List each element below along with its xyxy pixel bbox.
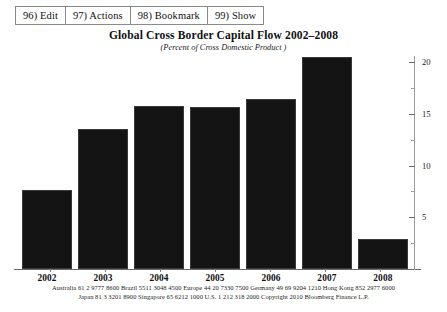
bar-2002[interactable] <box>22 190 72 269</box>
toolbar-button-bookmark[interactable]: 98) Bookmark <box>131 7 208 24</box>
footer-line-2: Japan 81 3 3201 8900 Singapore 65 6212 1… <box>0 292 447 301</box>
bar-2006[interactable] <box>246 99 296 269</box>
footer-line-1: Australia 61 2 9777 8600 Brazil 5511 304… <box>0 283 447 292</box>
bar-slot <box>190 56 240 269</box>
x-tick <box>325 269 326 272</box>
y-tick-label-5: 5 <box>422 213 426 222</box>
chart-subtitle: (Percent of Cross Domestic Product ) <box>0 42 447 53</box>
bar-2003[interactable] <box>78 129 128 269</box>
y-tick-5 <box>409 217 415 218</box>
x-tick <box>215 269 216 272</box>
x-axis-label-2004: 2004 <box>134 273 184 283</box>
bar-2008[interactable] <box>358 239 408 269</box>
y-minor-tick <box>411 243 415 244</box>
bar-series <box>22 56 408 269</box>
x-axis-label-2006: 2006 <box>246 273 296 283</box>
x-tick <box>105 269 106 272</box>
y-minor-tick <box>411 88 415 89</box>
x-axis-label-2002: 2002 <box>22 273 72 283</box>
x-tick <box>380 269 381 272</box>
x-axis-line <box>14 269 421 270</box>
y-tick-10 <box>409 166 415 167</box>
y-minor-tick <box>411 191 415 192</box>
bar-2004[interactable] <box>134 106 184 269</box>
toolbar-button-show[interactable]: 99) Show <box>208 7 263 24</box>
bar-slot <box>358 56 408 269</box>
x-axis-labels: 2002200320042005200620072008 <box>22 273 408 283</box>
bar-slot <box>246 56 296 269</box>
x-tick <box>270 269 271 272</box>
bar-2005[interactable] <box>190 107 240 269</box>
x-tick <box>160 269 161 272</box>
bar-slot <box>134 56 184 269</box>
bar-2007[interactable] <box>302 57 352 269</box>
y-tick-15 <box>409 114 415 115</box>
toolbar: 96) Edit97) Actions98) Bookmark99) Show <box>15 6 264 25</box>
plot-area <box>22 56 408 269</box>
y-tick-label-20: 20 <box>422 58 431 67</box>
y-tick-label-15: 15 <box>422 109 431 118</box>
x-tick <box>50 269 51 272</box>
bar-slot <box>302 56 352 269</box>
toolbar-button-edit[interactable]: 96) Edit <box>16 7 66 24</box>
y-minor-tick <box>411 140 415 141</box>
x-axis-label-2007: 2007 <box>302 273 352 283</box>
x-axis-label-2003: 2003 <box>78 273 128 283</box>
title-block: Global Cross Border Capital Flow 2002–20… <box>0 29 447 53</box>
bar-slot <box>78 56 128 269</box>
y-tick-label-10: 10 <box>422 161 431 170</box>
x-axis-label-2005: 2005 <box>190 273 240 283</box>
y-tick-20 <box>409 62 415 63</box>
x-axis-label-2008: 2008 <box>358 273 408 283</box>
bar-slot <box>22 56 72 269</box>
footer-contact-info: Australia 61 2 9777 8600 Brazil 5511 304… <box>0 283 447 302</box>
toolbar-button-actions[interactable]: 97) Actions <box>66 7 131 24</box>
chart-title: Global Cross Border Capital Flow 2002–20… <box>0 29 447 42</box>
